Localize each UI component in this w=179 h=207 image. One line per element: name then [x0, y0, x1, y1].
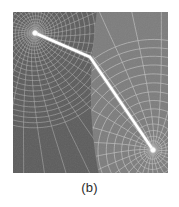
- warped-mesh-figure: [13, 12, 168, 173]
- scan-grain-overlay: [13, 12, 168, 173]
- figure-caption: (b): [0, 180, 179, 196]
- path-endpoint-marker-1: [33, 31, 38, 36]
- mesh-image-panel: [13, 12, 168, 173]
- path-endpoint-marker-2: [151, 148, 156, 153]
- figure-root: (b): [0, 0, 179, 207]
